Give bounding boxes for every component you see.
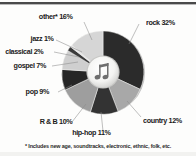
slice-label-rnb: R & B 10% xyxy=(40,117,73,126)
chart-figure: rock 32% country 12% hip-hop 11% R & B 1… xyxy=(0,0,196,156)
footnote-text: * Includes new age, soundtracks, electro… xyxy=(0,143,196,150)
slice-label-gospel: gospel 7% xyxy=(14,61,46,70)
slice-label-jazz: jazz 1% xyxy=(31,34,54,43)
hub-circle xyxy=(88,57,119,88)
slice-label-rock: rock 32% xyxy=(146,18,175,27)
slice-label-classical: classical 2% xyxy=(5,47,43,56)
slice-label-pop: pop 9% xyxy=(26,87,49,96)
slice-label-country: country 12% xyxy=(143,116,182,125)
bottom-edge xyxy=(0,152,196,156)
slice-label-hiphop: hip-hop 11% xyxy=(72,128,110,137)
slice-label-other: other* 16% xyxy=(39,12,73,21)
